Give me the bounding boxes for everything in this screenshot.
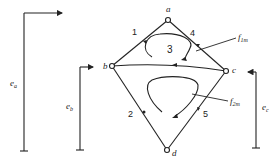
edge-2 <box>112 66 167 150</box>
edge-3 <box>112 63 226 71</box>
node-d-label: d <box>172 148 177 158</box>
node-a <box>166 18 171 23</box>
node-b-label: b <box>103 61 108 71</box>
edge-4-label: 4 <box>190 28 195 38</box>
network-diagram: ea eb ec 1 4 3 2 5 f1 <box>0 0 275 161</box>
node-a-label: a <box>166 4 171 14</box>
edge-1 <box>112 20 168 66</box>
loop-f2m-label: f2m <box>230 96 241 107</box>
node-c-label: c <box>232 65 236 75</box>
edge-1-label: 1 <box>132 27 137 37</box>
node-d <box>165 148 170 153</box>
source-ea-label: ea <box>10 78 17 89</box>
node-c <box>224 69 229 74</box>
source-eb-bracket <box>76 67 93 150</box>
node-b <box>110 64 115 69</box>
source-ec-bracket <box>248 72 260 148</box>
edge-3-label: 3 <box>167 44 173 55</box>
loop-f2m <box>147 77 228 118</box>
edge-2-label: 2 <box>128 109 133 119</box>
loop-f1m-label: f1m <box>238 32 249 43</box>
source-eb-label: eb <box>66 101 73 112</box>
edge-5-label: 5 <box>203 109 208 119</box>
source-ec-label: ec <box>262 102 269 113</box>
source-ea-bracket <box>20 13 62 151</box>
